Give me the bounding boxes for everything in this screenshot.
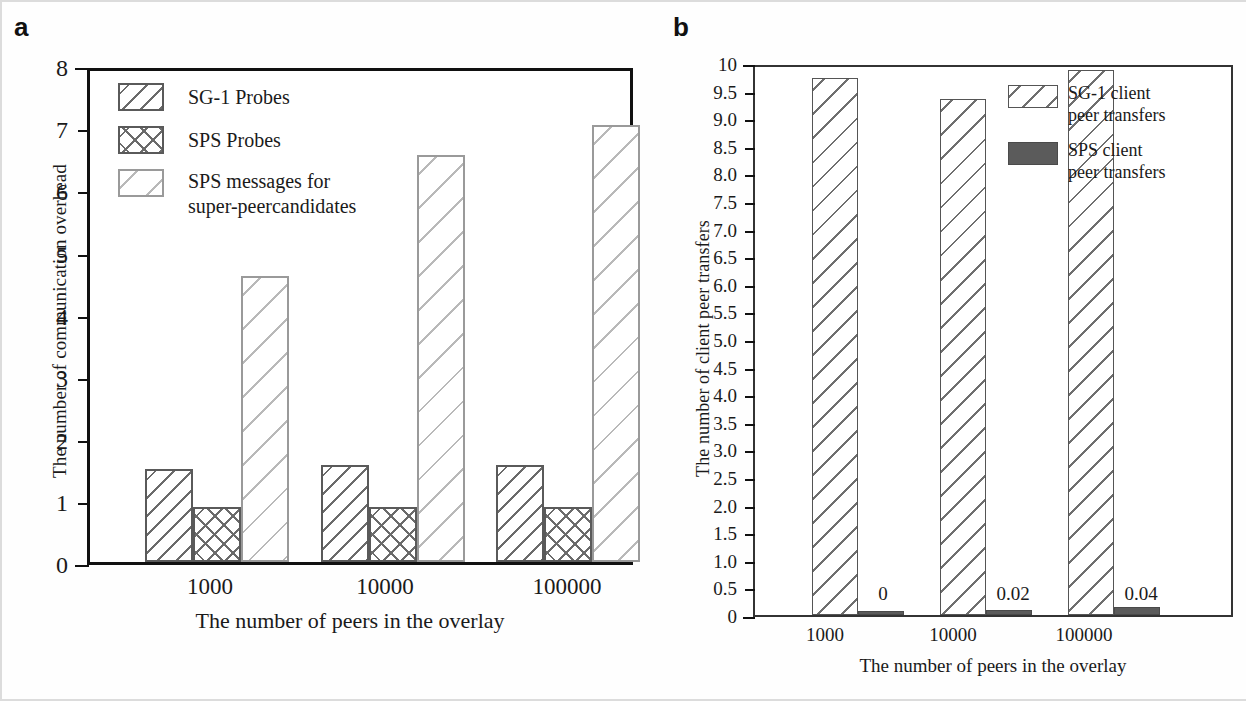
bar-a-spsmsg-100000 <box>592 125 640 562</box>
legend-swatch-sg1-probes <box>118 83 164 111</box>
y-tick-b-8.5: 8.5 <box>695 137 737 159</box>
x-tick-a-10000: 10000 <box>325 574 445 600</box>
panel-b-chart: b The number of client peer transfers 0 … <box>640 0 1246 701</box>
panel-b-x-axis-label: The number of peers in the overlay <box>753 655 1233 677</box>
y-tick-b-3.5: 3.5 <box>695 413 737 435</box>
y-tick-mark-b-8.0 <box>745 175 755 177</box>
y-tick-b-9.5: 9.5 <box>695 82 737 104</box>
legend-item-b-0: SG-1 client peer transfers <box>1008 85 1165 126</box>
y-tick-a-2: 2 <box>40 428 68 455</box>
legend-swatch-sps-messages <box>118 169 164 197</box>
y-tick-mark-b-8.5 <box>745 148 755 150</box>
y-tick-a-4: 4 <box>40 304 68 331</box>
y-tick-mark-b-9.0 <box>745 120 755 122</box>
y-tick-mark-b-4.0 <box>745 396 755 398</box>
panel-b-plot-area: 0 0.02 0.04 SG-1 client peer transfers S… <box>753 65 1233 617</box>
y-tick-mark-b-2.5 <box>745 479 755 481</box>
x-tick-a-1000: 1000 <box>155 574 265 600</box>
x-tick-b-1000: 1000 <box>785 624 865 646</box>
legend-swatch-sps-probes <box>118 126 164 154</box>
bar-a-sps-1000 <box>193 507 241 562</box>
panel-b-legend: SG-1 client peer transfers SPS client pe… <box>1008 85 1228 215</box>
x-tick-b-100000: 100000 <box>1032 624 1136 646</box>
y-tick-b-5.5: 5.5 <box>695 302 737 324</box>
bar-a-sps-100000 <box>544 507 592 562</box>
y-tick-b-9.0: 9.0 <box>695 109 737 131</box>
y-tick-b-4.5: 4.5 <box>695 358 737 380</box>
legend-label-sps-client-transfers: SPS client peer transfers <box>1068 139 1165 183</box>
data-label-b-sps-100000: 0.04 <box>1115 583 1167 605</box>
legend-swatch-sg1-client-transfers <box>1008 85 1058 108</box>
y-tick-a-7: 7 <box>40 117 68 144</box>
panel-a-chart: a The number of communication overhead S… <box>0 0 640 660</box>
legend-label-sg1-probes: SG-1 Probes <box>188 83 290 111</box>
bar-a-spsmsg-10000 <box>417 155 465 562</box>
y-tick-mark-b-7.0 <box>745 231 755 233</box>
y-tick-mark-b-5.0 <box>745 341 755 343</box>
y-tick-a-8: 8 <box>40 55 68 82</box>
panel-a-x-axis-label: The number of peers in the overlay <box>60 608 640 634</box>
y-tick-mark-b-7.5 <box>745 203 755 205</box>
legend-item-a-0: SG-1 Probes <box>118 83 290 111</box>
legend-swatch-sps-client-transfers <box>1008 142 1058 165</box>
y-tick-mark-b-1.5 <box>745 534 755 536</box>
bar-a-sg1-100000 <box>496 465 544 562</box>
y-tick-mark-b-10 <box>743 65 755 67</box>
legend-item-a-2: SPS messages for super-peercandidates <box>118 169 356 219</box>
y-tick-b-5.0: 5.0 <box>695 330 737 352</box>
y-tick-mark-b-5.5 <box>745 313 755 315</box>
panel-b-letter: b <box>673 12 689 43</box>
y-tick-b-0.5: 0.5 <box>695 578 737 600</box>
y-tick-b-8.0: 8.0 <box>695 164 737 186</box>
y-tick-a-6: 6 <box>40 179 68 206</box>
data-label-b-sps-1000: 0 <box>865 583 901 605</box>
y-tick-mark-b-0 <box>743 617 755 619</box>
y-tick-b-4.0: 4.0 <box>695 385 737 407</box>
panel-a-legend: SG-1 Probes SPS Probes SPS messages for … <box>118 83 388 233</box>
y-tick-b-6.0: 6.0 <box>695 275 737 297</box>
y-tick-mark-b-0.5 <box>745 589 755 591</box>
legend-item-b-1: SPS client peer transfers <box>1008 142 1165 183</box>
data-label-b-sps-10000: 0.02 <box>987 583 1039 605</box>
y-tick-b-7.5: 7.5 <box>695 192 737 214</box>
legend-label-sps-probes: SPS Probes <box>188 126 281 154</box>
y-tick-b-2.5: 2.5 <box>695 468 737 490</box>
y-tick-a-0: 0 <box>40 552 68 579</box>
bar-a-spsmsg-1000 <box>241 276 289 562</box>
panel-a-letter: a <box>14 12 28 43</box>
y-tick-mark-b-1.0 <box>745 562 755 564</box>
bar-b-sps-10000 <box>986 610 1032 615</box>
bar-a-sg1-1000 <box>145 469 193 562</box>
panel-a-plot-area: SG-1 Probes SPS Probes SPS messages for … <box>87 68 633 565</box>
y-tick-mark-b-3.0 <box>745 451 755 453</box>
y-tick-mark-b-6.0 <box>745 286 755 288</box>
y-tick-b-7.0: 7.0 <box>695 220 737 242</box>
scan-edge-top <box>0 0 1246 2</box>
scan-edge-left <box>0 0 2 701</box>
y-tick-b-10: 10 <box>695 54 737 76</box>
legend-label-sg1-client-transfers: SG-1 client peer transfers <box>1068 82 1165 126</box>
bar-b-sps-1000 <box>858 611 904 615</box>
bar-a-sps-10000 <box>369 507 417 562</box>
x-tick-a-100000: 100000 <box>497 574 637 600</box>
y-tick-mark-b-6.5 <box>745 258 755 260</box>
bar-a-sg1-10000 <box>321 465 369 562</box>
y-tick-b-0: 0 <box>695 606 737 628</box>
bar-b-sg1-10000 <box>940 99 986 615</box>
legend-label-sps-messages: SPS messages for super-peercandidates <box>188 169 356 219</box>
y-tick-a-1: 1 <box>40 490 68 517</box>
legend-item-a-1: SPS Probes <box>118 126 281 154</box>
y-tick-mark-b-9.5 <box>745 93 755 95</box>
y-tick-b-1.5: 1.5 <box>695 523 737 545</box>
y-tick-mark-b-3.5 <box>745 424 755 426</box>
y-tick-mark-b-4.5 <box>745 369 755 371</box>
bar-b-sg1-1000 <box>812 78 858 615</box>
y-tick-b-6.5: 6.5 <box>695 247 737 269</box>
y-tick-a-3: 3 <box>40 366 68 393</box>
y-tick-a-5: 5 <box>40 242 68 269</box>
bar-b-sps-100000 <box>1114 607 1160 615</box>
y-tick-mark-b-2.0 <box>745 507 755 509</box>
y-tick-b-3.0: 3.0 <box>695 440 737 462</box>
y-tick-b-2.0: 2.0 <box>695 496 737 518</box>
x-tick-b-10000: 10000 <box>908 624 998 646</box>
